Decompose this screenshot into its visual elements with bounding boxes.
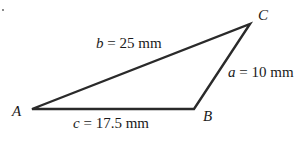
side-label-c: c = 17.5 mm	[73, 115, 149, 131]
vertex-label-c: C	[258, 7, 269, 23]
vertex-label-a: A	[11, 103, 22, 119]
side-label-a: a = 10 mm	[228, 64, 294, 80]
stray-dot	[2, 9, 4, 11]
side-a-value: = 10 mm	[236, 64, 294, 80]
side-b-value: = 25 mm	[104, 35, 162, 51]
triangle-diagram: C A B b = 25 mm a = 10 mm c = 17.5 mm	[0, 0, 304, 144]
side-c-value: = 17.5 mm	[80, 115, 150, 131]
vertex-label-b: B	[203, 108, 212, 124]
side-label-b: b = 25 mm	[96, 35, 162, 51]
side-a-variable: a	[228, 64, 236, 80]
